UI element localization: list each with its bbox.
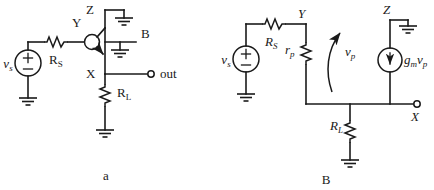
resistor-rs-b (262, 19, 286, 29)
circuit-a-group: vs RS Y Z X B out RL a (3, 2, 177, 183)
ground-rl-a (96, 130, 114, 137)
caption-a: a (103, 168, 109, 183)
label-node-y-a: Y (72, 15, 82, 30)
label-node-y-b: Y (298, 6, 307, 21)
label-node-b-a: B (141, 26, 150, 41)
voltage-arrow-vp-b (328, 33, 340, 92)
label-node-x-b: X (410, 109, 420, 124)
ground-z-a (115, 18, 133, 25)
label-node-z-b: Z (383, 2, 391, 17)
label-node-x-a: X (86, 66, 96, 81)
figure-root: vs RS Y Z X B out RL a (0, 0, 434, 190)
ground-b-a (111, 50, 129, 57)
label-rp-b: rp (285, 42, 295, 59)
label-vs-a: vs (3, 56, 13, 73)
label-rs-a: RS (49, 52, 63, 69)
out-terminal-circle-a[interactable] (148, 71, 154, 77)
label-node-z-a: Z (86, 2, 94, 17)
label-rl-b: RL (329, 118, 343, 135)
label-rs-b: RS (264, 34, 278, 51)
resistor-rp-b (301, 42, 311, 65)
label-out-a: out (160, 66, 177, 81)
voltage-source-vs-b (233, 46, 259, 72)
ground-source-b (237, 94, 255, 101)
resistor-rs-a (44, 37, 68, 47)
label-vs-b: vs (221, 52, 231, 69)
x-terminal-circle-b[interactable] (414, 101, 420, 107)
ground-z-b (399, 26, 417, 33)
resistor-rl-b (345, 120, 355, 143)
circuit-b-group: vs RS rp Y Z X vp gmvp RL B (221, 2, 427, 187)
label-gm-vp-b: gmvp (404, 52, 428, 69)
transistor-lead-z-a (97, 28, 105, 37)
resistor-rl-a (100, 84, 110, 107)
voltage-source-vs-a (15, 50, 41, 76)
caption-b: B (322, 172, 331, 187)
ground-source-a (19, 98, 37, 105)
label-rl-a: RL (117, 85, 131, 102)
label-vp-b: vp (345, 44, 356, 61)
dependent-current-source-b (378, 48, 402, 72)
transistor-lead-x-arrow-a (97, 47, 103, 54)
circuit-figure-svg: vs RS Y Z X B out RL a (0, 0, 434, 190)
transistor-symbol-a (85, 28, 106, 54)
ground-rl-b (341, 160, 359, 167)
